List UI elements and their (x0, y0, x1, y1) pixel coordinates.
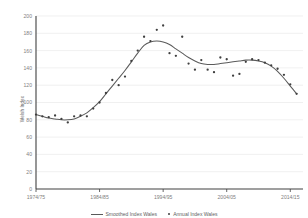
svg-text:140: 140 (24, 65, 33, 71)
chart-legend: Smoothed Index Wales Annual Index Wales (0, 211, 308, 217)
legend-label-smoothed: Smoothed Index Wales (106, 211, 158, 217)
svg-text:80: 80 (26, 117, 32, 123)
svg-text:2004/05: 2004/05 (218, 194, 237, 200)
gridlines (36, 16, 303, 172)
svg-text:2014/15: 2014/15 (281, 194, 300, 200)
chart-container: Welsh Index 020406080100120140160180200 … (0, 0, 308, 218)
svg-text:1994/95: 1994/95 (154, 194, 173, 200)
svg-text:1984/85: 1984/85 (90, 194, 109, 200)
legend-item-smoothed: Smoothed Index Wales (91, 211, 158, 217)
svg-text:180: 180 (24, 30, 33, 36)
svg-text:200: 200 (24, 13, 33, 19)
svg-text:20: 20 (26, 169, 32, 175)
svg-text:0: 0 (29, 186, 32, 192)
chart-plot-area: 020406080100120140160180200 1974/751984/… (0, 0, 308, 218)
svg-text:120: 120 (24, 82, 33, 88)
svg-text:160: 160 (24, 48, 33, 54)
svg-text:100: 100 (24, 99, 33, 105)
line-swatch-icon (91, 214, 103, 215)
legend-item-annual: Annual Index Wales (168, 211, 217, 217)
dot-swatch-icon (168, 213, 170, 215)
svg-text:40: 40 (26, 151, 32, 157)
legend-label-annual: Annual Index Wales (173, 211, 217, 217)
svg-text:60: 60 (26, 134, 32, 140)
smoothed-index-line (36, 41, 297, 120)
y-axis-ticks: 020406080100120140160180200 (24, 13, 33, 192)
svg-text:1974/75: 1974/75 (27, 194, 46, 200)
annual-index-points (35, 24, 298, 123)
x-axis-ticks: 1974/751984/851994/952004/052014/15 (27, 189, 300, 200)
